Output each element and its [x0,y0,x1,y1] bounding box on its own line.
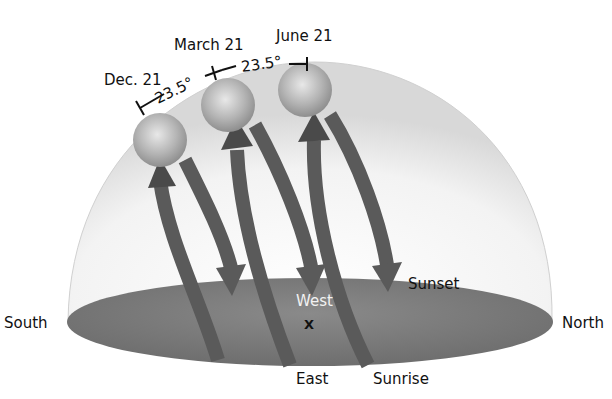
sun-march-21 [201,78,255,132]
label-north: North [562,314,604,332]
sun-june-21 [278,63,332,117]
sun-path-diagram: Dec. 21 March 21 June 21 23.5° 23.5° Sou… [0,0,612,399]
label-june-21: June 21 [275,27,333,45]
label-dec-21: Dec. 21 [104,71,162,89]
label-south: South [4,314,48,332]
observer-marker: X [304,317,314,332]
sun-dec-21 [133,113,187,167]
label-sunrise: Sunrise [373,370,429,388]
label-march-21: March 21 [174,36,244,54]
label-sunset: Sunset [408,275,460,293]
label-east: East [296,370,328,388]
label-west: West [296,292,333,310]
